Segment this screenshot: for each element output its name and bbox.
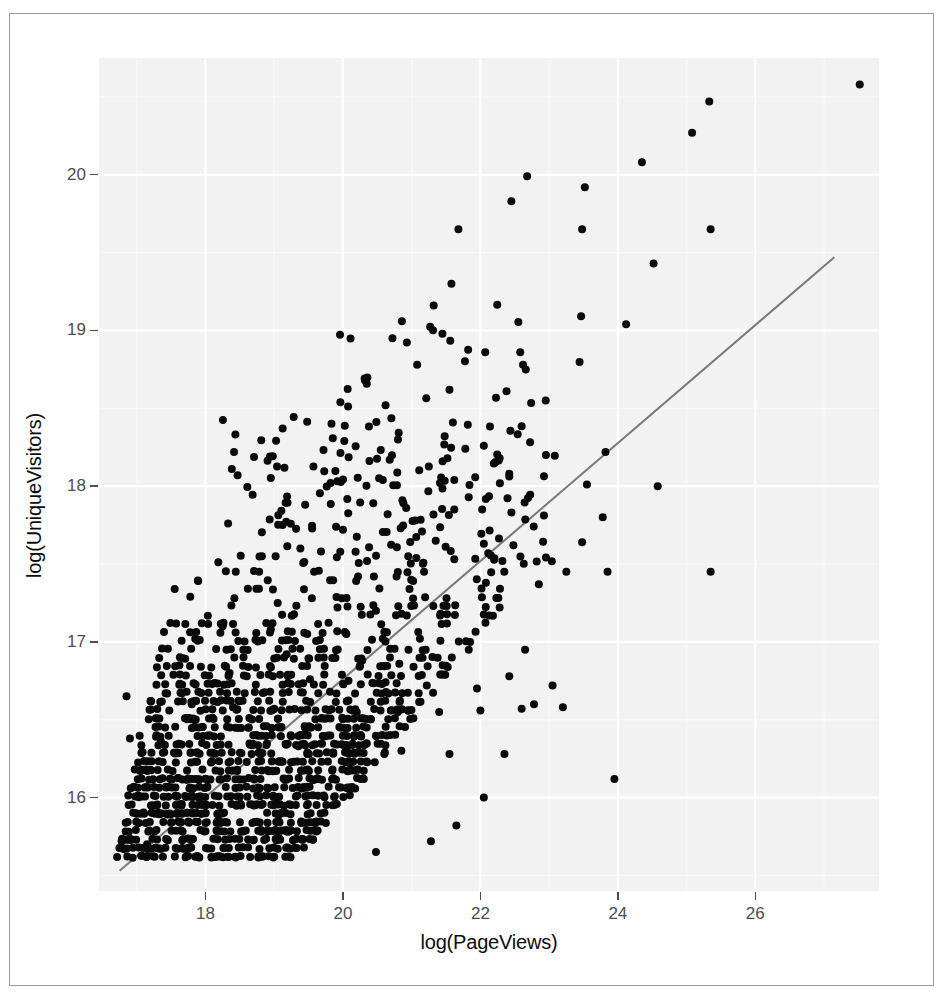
x-tick-mark: [755, 892, 756, 900]
x-tick-mark: [342, 892, 343, 900]
x-tick-label: 26: [725, 904, 785, 924]
x-tick-label: 18: [176, 904, 236, 924]
x-tick-mark: [480, 892, 481, 900]
x-tick-label: 20: [313, 904, 373, 924]
y-tick-label: 20: [26, 165, 86, 185]
panel-background: [99, 58, 879, 891]
y-tick-label: 19: [26, 320, 86, 340]
x-tick-label: 22: [450, 904, 510, 924]
y-tick-mark: [90, 797, 98, 798]
plot-area: log(UniqueVisitors) log(PageViews) 16171…: [10, 14, 935, 987]
y-tick-label: 16: [26, 788, 86, 808]
y-tick-label: 18: [26, 476, 86, 496]
x-tick-mark: [617, 892, 618, 900]
y-tick-mark: [90, 174, 98, 175]
x-tick-label: 24: [588, 904, 648, 924]
y-tick-mark: [90, 330, 98, 331]
x-tick-mark: [205, 892, 206, 900]
figure-frame: log(UniqueVisitors) log(PageViews) 16171…: [9, 13, 934, 986]
x-axis-title: log(PageViews): [99, 931, 879, 954]
y-tick-label: 17: [26, 632, 86, 652]
y-tick-mark: [90, 641, 98, 642]
scatter-plot-svg[interactable]: [10, 14, 935, 987]
y-tick-mark: [90, 485, 98, 486]
